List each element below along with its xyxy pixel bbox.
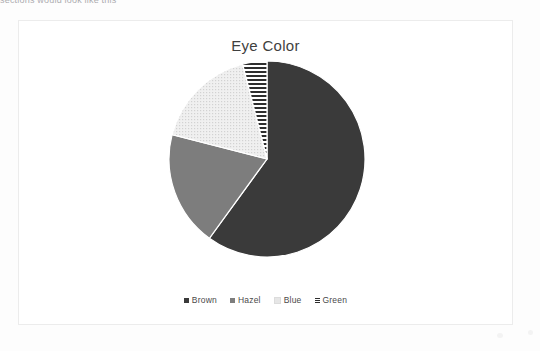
legend-label-blue: Blue (284, 295, 302, 305)
cropped-document-text: sections would look like this (0, 0, 460, 6)
legend-label-green: Green (323, 295, 348, 305)
blue-swatch-icon (274, 297, 281, 304)
legend-item-blue[interactable]: Blue (274, 295, 302, 305)
chart-legend: Brown Hazel Blue Green (19, 295, 512, 305)
brown-swatch-icon (184, 298, 189, 303)
pie-chart-svg (167, 59, 367, 259)
green-swatch-icon (315, 298, 320, 303)
legend-label-hazel: Hazel (238, 295, 261, 305)
pie-chart-plot-area (19, 21, 514, 326)
legend-item-brown[interactable]: Brown (184, 295, 217, 305)
hazel-swatch-icon (230, 298, 235, 303)
legend-label-brown: Brown (192, 295, 217, 305)
page-artifact-dot (497, 333, 503, 338)
chart-frame: Eye Color Brown Hazel (18, 20, 513, 325)
legend-item-hazel[interactable]: Hazel (230, 295, 261, 305)
page-artifact-dot-2 (528, 330, 533, 335)
legend-item-green[interactable]: Green (315, 295, 348, 305)
